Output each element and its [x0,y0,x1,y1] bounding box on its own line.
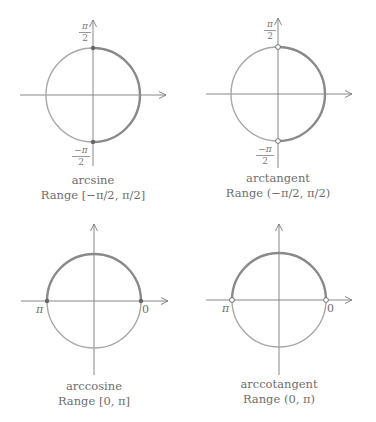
function-name: arcsine [23,173,163,188]
diagram-canvas [0,0,376,422]
arccotangent-diagram [206,224,352,375]
closed-endpoint-top [91,46,95,50]
label-zero: 0 [327,302,334,315]
function-name: arccotangent [209,377,349,392]
open-endpoint-bottom [276,139,281,144]
range-label: Range [−π/2, π/2] [23,188,163,203]
label-pi: π [222,302,229,315]
function-name: arccosine [24,379,164,394]
arccosine-caption: arccosine Range [0, π] [24,379,164,409]
arccosine-diagram [21,224,168,375]
label-zero: 0 [142,303,149,316]
label-pi: π [36,303,43,316]
arctangent-caption: arctangent Range (−π/2, π/2) [208,171,348,201]
label-pi-over-2: π 2 [264,20,276,41]
arcsine-diagram [20,20,166,166]
arccotangent-caption: arccotangent Range (0, π) [209,377,349,407]
open-endpoint-left [230,298,235,303]
label-neg-pi-over-2: −π 2 [72,146,90,167]
range-label: Range [0, π] [24,394,164,409]
closed-endpoint-left [45,299,49,303]
closed-endpoint-bottom [91,140,95,144]
arctangent-diagram [206,18,352,168]
range-label: Range (0, π) [209,392,349,407]
function-name: arctangent [208,171,348,186]
label-neg-pi-over-2: −π 2 [256,145,274,166]
arcsine-caption: arcsine Range [−π/2, π/2] [23,173,163,203]
label-pi-over-2: π 2 [79,22,91,43]
range-label: Range (−π/2, π/2) [208,186,348,201]
open-endpoint-top [276,45,281,50]
